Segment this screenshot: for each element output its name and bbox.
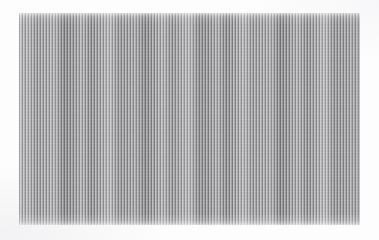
stripe-panel [19,13,360,225]
stripe-horizontal-fade-layer [19,13,360,225]
image-canvas [0,0,379,240]
